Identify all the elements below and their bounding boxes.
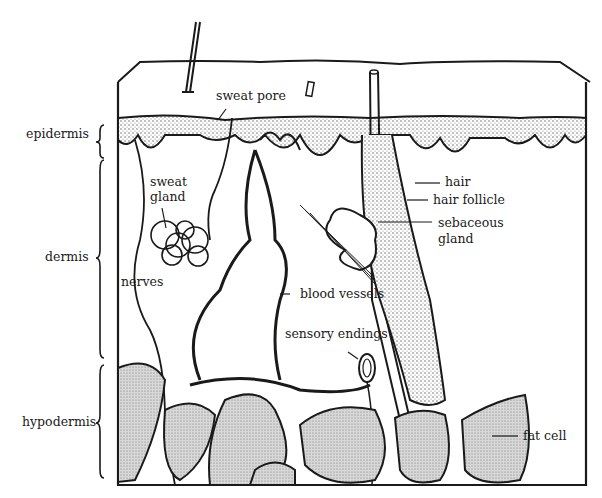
dermis-brace xyxy=(96,160,104,358)
sweat-gland-label-line2: gland xyxy=(150,190,186,204)
hypodermis-label: hypodermis xyxy=(22,415,96,429)
sensory-ending xyxy=(359,354,375,382)
sweat-pore-label: sweat pore xyxy=(216,89,286,103)
sebaceous-gland-label-line2: gland xyxy=(438,232,474,246)
epidermis-band xyxy=(118,115,586,155)
epidermis-label: epidermis xyxy=(26,127,89,141)
dermis-label: dermis xyxy=(45,250,89,264)
fat-cell-label: fat cell xyxy=(523,429,566,443)
hair-shaft-left xyxy=(186,22,200,92)
hair-label: hair xyxy=(445,175,470,189)
sensory-endings-label: sensory endings xyxy=(285,327,388,341)
blood-vessels-label: blood vessels xyxy=(300,287,384,301)
epidermis-brace xyxy=(96,125,104,158)
sweat-gland-coil xyxy=(151,221,208,266)
hair-follicle-label: hair follicle xyxy=(433,193,505,207)
hypodermis-brace xyxy=(96,365,104,478)
sweat-gland-label-line1: sweat xyxy=(150,175,187,189)
nerves-label: nerves xyxy=(121,275,163,289)
blood-vessel xyxy=(193,150,286,380)
sebaceous-gland-label-line1: sebaceous xyxy=(438,216,504,230)
fat-cells xyxy=(118,364,529,485)
hair-stub xyxy=(306,82,314,97)
